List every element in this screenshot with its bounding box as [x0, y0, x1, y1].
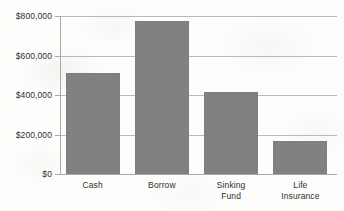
y-axis-tick-label: $600,000: [16, 51, 52, 61]
y-axis-tick-label: $400,000: [16, 90, 52, 100]
y-axis-tick-label: $0: [42, 169, 52, 179]
x-axis-category-label: Cash: [58, 180, 127, 191]
y-axis-tick-label: $200,000: [16, 130, 52, 140]
bar[interactable]: [273, 141, 327, 174]
x-axis-category-label: Life Insurance: [266, 180, 335, 201]
x-axis-category-label: Borrow: [127, 180, 196, 191]
plot-area: [60, 16, 337, 174]
bar-chart: $0$200,000$400,000$600,000$800,000 CashB…: [0, 0, 344, 211]
y-axis-tick: [55, 174, 61, 175]
x-axis-category-label: Sinking Fund: [197, 180, 266, 201]
y-axis-tick-label: $800,000: [16, 11, 52, 21]
bar[interactable]: [66, 73, 120, 174]
bar[interactable]: [135, 21, 189, 174]
bar[interactable]: [204, 92, 258, 174]
gridline: [60, 174, 337, 175]
